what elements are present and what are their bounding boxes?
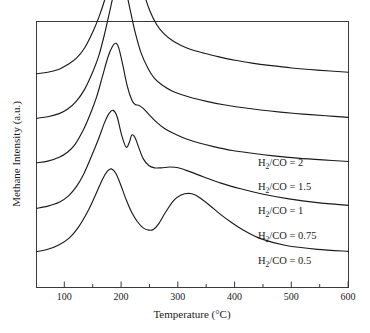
tpsr-line-chart: 100 200 300 400 500 600 Temperature (°C)… — [0, 0, 370, 333]
x-axis-title: Temperature (°C) — [153, 308, 231, 321]
x-tick-label-400: 400 — [227, 291, 242, 302]
x-tick-label-200: 200 — [114, 291, 129, 302]
chart-background — [0, 0, 370, 333]
chart-figure: 100 200 300 400 500 600 Temperature (°C)… — [0, 0, 370, 333]
y-axis-title: Methane Intensity (a.u.) — [10, 101, 23, 207]
x-tick-label-500: 500 — [284, 291, 299, 302]
x-tick-label-300: 300 — [170, 291, 185, 302]
x-tick-label-600: 600 — [341, 291, 356, 302]
x-tick-label-100: 100 — [57, 291, 72, 302]
